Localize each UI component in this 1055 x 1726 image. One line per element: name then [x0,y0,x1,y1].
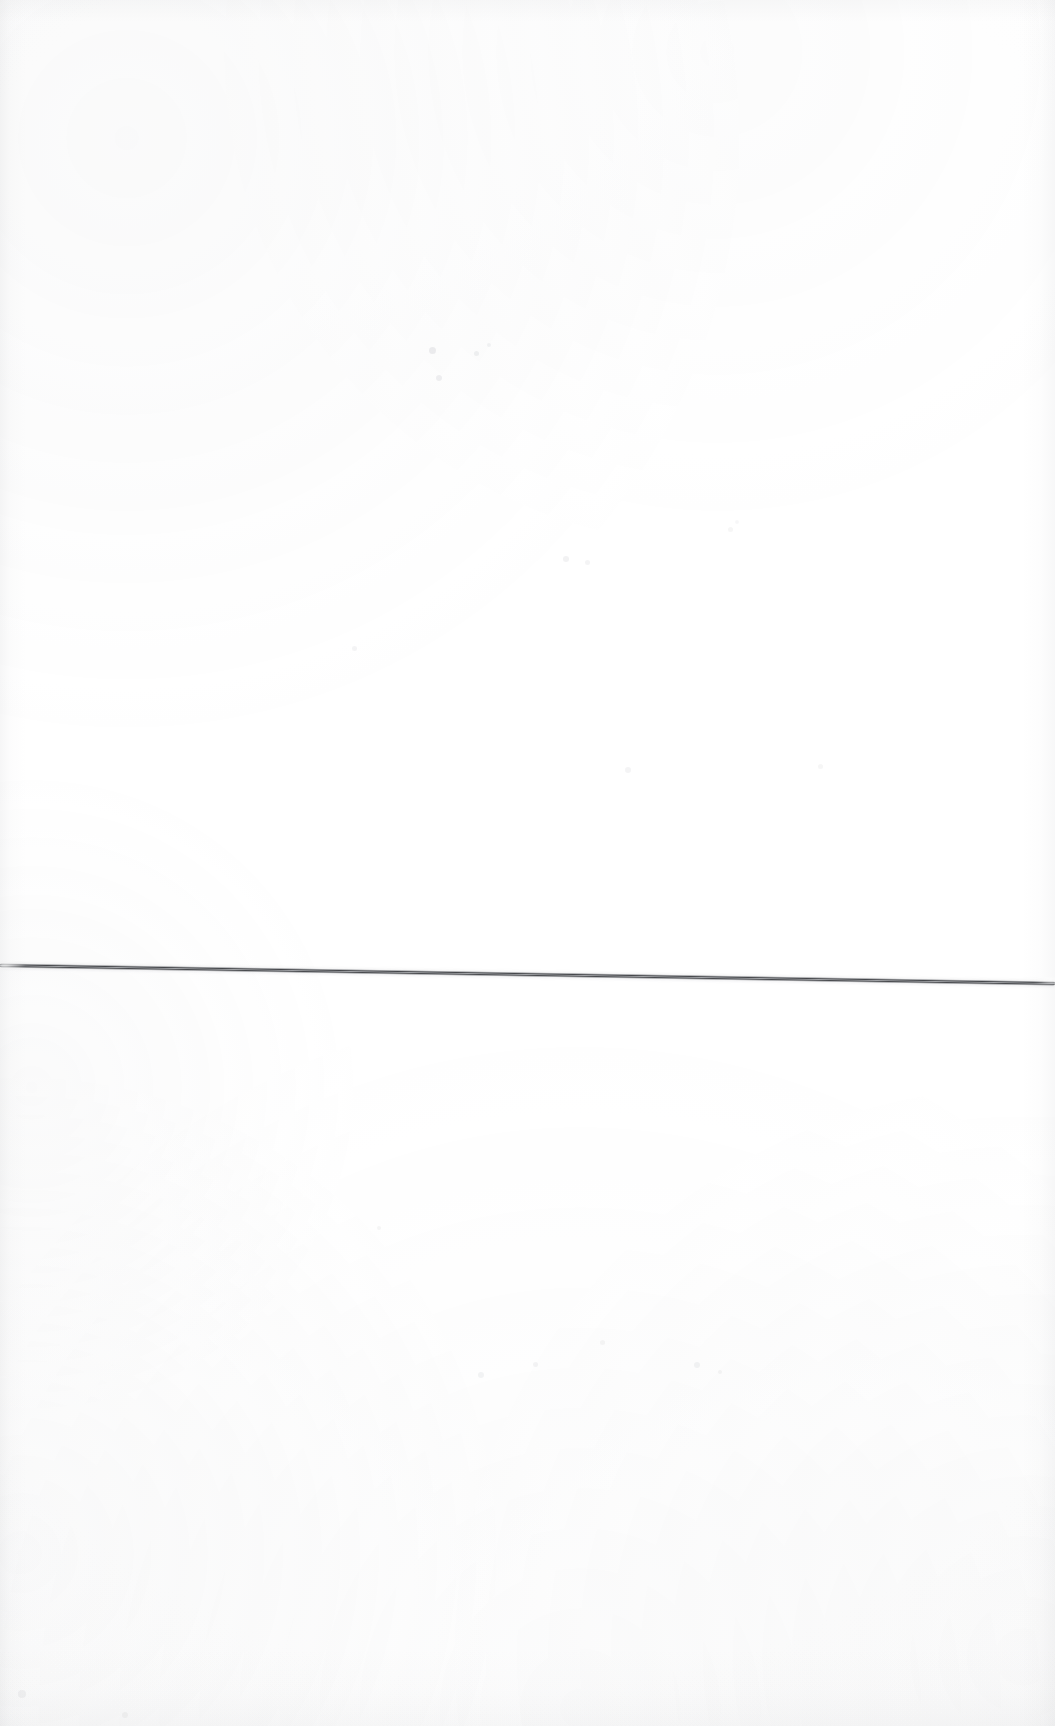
paper-background [0,0,1055,1726]
scanned-page: Scanned blank page with single horizonta… [0,0,1055,1726]
